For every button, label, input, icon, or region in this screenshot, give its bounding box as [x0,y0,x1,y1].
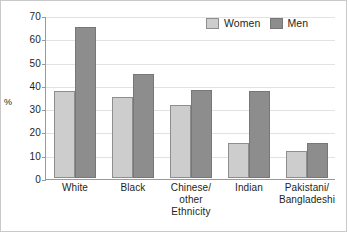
bar-women[interactable] [228,143,249,178]
bar-group [279,17,337,178]
legend-item-men[interactable]: Men [270,18,309,29]
x-axis-tick-label: Pakistani/Bangladeshi [278,182,336,205]
bars-layer [47,17,335,178]
x-axis-tick-label-line: Chinese/ [162,182,220,194]
y-axis-tick-label: 60 [5,35,41,45]
bar-men[interactable] [249,91,270,178]
bar-chart: % 706050403020100 WhiteBlackChinese/othe… [0,0,347,232]
y-axis-tick [42,133,46,134]
bar-women[interactable] [170,105,191,178]
x-axis-title: Ethnicity [46,206,336,217]
y-axis-tick-label: 0 [5,175,41,185]
y-axis-tick [42,180,46,181]
bar-women[interactable] [112,97,133,179]
x-axis-tick-label: Black [104,182,162,194]
x-axis-tick-label-line: Black [104,182,162,194]
bar-men[interactable] [75,27,96,178]
bar-women[interactable] [54,91,75,178]
y-axis-tick [42,110,46,111]
y-axis-tick [42,157,46,158]
y-axis-tick [42,40,46,41]
x-axis-tick-label-line: other [162,194,220,206]
bar-men[interactable] [133,74,154,178]
bar-group [221,17,279,178]
x-axis-tick-label-line: Bangladeshi [278,194,336,206]
bar-men[interactable] [307,143,328,178]
legend-label: Women [224,18,261,29]
y-axis-tick-label: 10 [5,152,41,162]
y-axis-tick [42,17,46,18]
plot-axes [45,17,335,180]
x-axis-tick-label-line: White [46,182,104,194]
bar-group [163,17,221,178]
x-axis-tick-label-line: Indian [220,182,278,194]
y-axis-tick-label: 20 [5,128,41,138]
legend-item-women[interactable]: Women [206,18,261,29]
legend-label: Men [288,18,309,29]
y-axis-tick-label: 70 [5,12,41,22]
women-swatch [206,18,219,29]
y-axis-tick [42,87,46,88]
y-axis-tick [42,64,46,65]
x-axis-tick-label: Chinese/other [162,182,220,205]
y-axis-tick-label: 50 [5,59,41,69]
x-axis-tick-label-line: Pakistani/ [278,182,336,194]
bar-group [47,17,105,178]
legend: WomenMen [206,18,308,29]
bar-group [105,17,163,178]
men-swatch [270,18,283,29]
y-axis-tick-labels: 706050403020100 [1,17,41,180]
plot-area [45,17,335,180]
y-axis-tick-label: 40 [5,82,41,92]
x-axis-tick-label: Indian [220,182,278,194]
y-axis-tick-label: 30 [5,105,41,115]
bar-men[interactable] [191,90,212,178]
bar-women[interactable] [286,151,307,178]
x-axis-tick-label: White [46,182,104,194]
